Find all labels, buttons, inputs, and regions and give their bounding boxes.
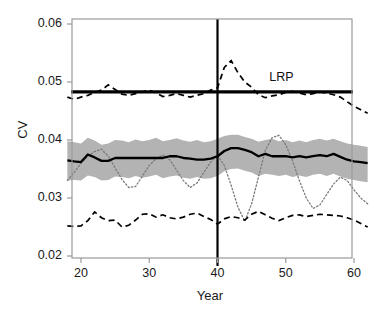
plot-frame xyxy=(72,19,352,258)
x-tick-label: 60 xyxy=(331,266,377,280)
y-tick-label: 0.03 xyxy=(16,190,62,204)
chart-figure: CV Year 0.060.050.040.030.02 2030405060 … xyxy=(0,0,384,318)
y-tick-label: 0.05 xyxy=(16,74,62,88)
x-axis-label: Year xyxy=(150,288,270,303)
x-tick-label: 40 xyxy=(195,266,241,280)
x-tick-label: 20 xyxy=(58,266,104,280)
lrp-annotation-label: LRP xyxy=(268,70,294,84)
y-axis-label: CV xyxy=(15,102,30,158)
y-tick-label: 0.06 xyxy=(16,16,62,30)
x-tick-label: 30 xyxy=(126,266,172,280)
y-tick-label: 0.02 xyxy=(16,248,62,262)
x-tick-label: 50 xyxy=(263,266,309,280)
y-tick-label: 0.04 xyxy=(16,132,62,146)
